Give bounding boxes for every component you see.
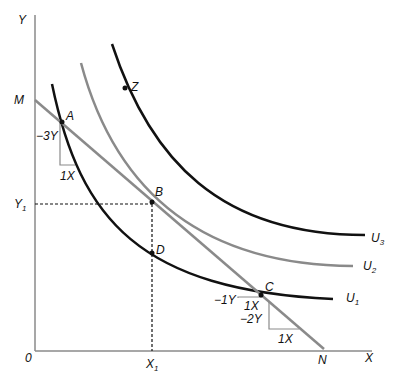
point-d	[150, 251, 155, 256]
point-c	[259, 293, 264, 298]
label-u1: U1	[346, 291, 359, 307]
x-axis-label: X	[364, 351, 374, 365]
slope-triangle-c-left	[238, 297, 262, 298]
label-d: D	[156, 243, 165, 257]
label-a: A	[65, 109, 74, 123]
y-axis-label: Y	[18, 13, 27, 27]
label-n: N	[318, 353, 327, 367]
indifference-curve-u3	[112, 44, 365, 235]
slope-c-run: 1X	[278, 332, 294, 346]
label-x1: X1	[145, 357, 158, 373]
slope-c-left-run: 1X	[244, 299, 260, 313]
slope-c-rise: −2Y	[240, 312, 263, 326]
diagram-canvas: Y X 0 M N A B D C Z Y1 X1 U3 U2 U1 −3Y 1…	[0, 0, 393, 380]
label-u2: U2	[363, 259, 377, 275]
label-y1: Y1	[14, 197, 26, 213]
slope-a-rise: −3Y	[36, 129, 59, 143]
slope-a-run: 1X	[60, 169, 76, 183]
point-b	[150, 200, 155, 205]
point-a	[60, 120, 65, 125]
label-c: C	[265, 280, 274, 294]
indifference-curve-u2	[81, 63, 353, 266]
origin-label: 0	[25, 351, 32, 365]
point-z	[123, 86, 128, 91]
label-u3: U3	[371, 231, 385, 247]
label-m: M	[14, 93, 24, 107]
slope-c-left-rise: −1Y	[214, 293, 237, 307]
indifference-curve-u1	[52, 84, 333, 299]
label-b: B	[155, 185, 163, 199]
indifference-curve-diagram: Y X 0 M N A B D C Z Y1 X1 U3 U2 U1 −3Y 1…	[0, 0, 393, 380]
label-z: Z	[130, 80, 139, 94]
